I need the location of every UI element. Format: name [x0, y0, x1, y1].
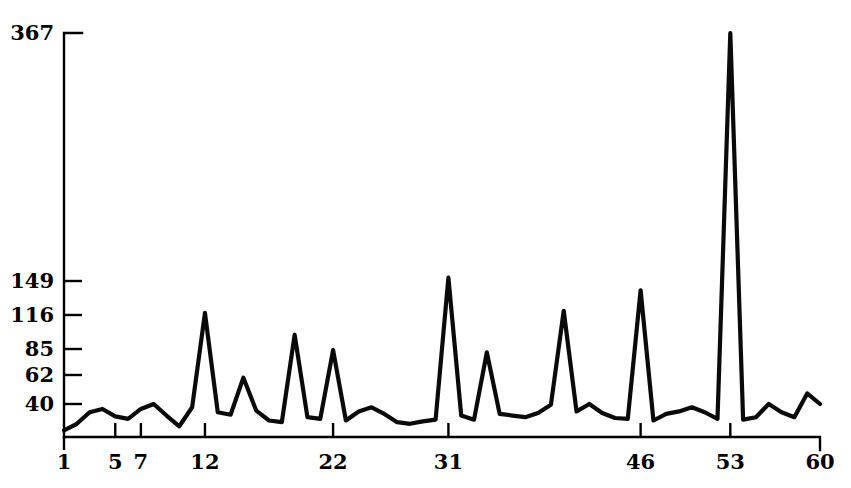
- x-tick-label: 12: [190, 449, 219, 474]
- x-tick-label: 60: [805, 449, 834, 474]
- y-tick-label: 367: [10, 20, 54, 45]
- y-tick-label: 149: [10, 268, 54, 293]
- y-tick-label: 40: [25, 391, 54, 416]
- x-tick-label: 5: [108, 449, 123, 474]
- x-tick-label: 22: [318, 449, 347, 474]
- x-tick-label-group: 157122231465360: [57, 449, 835, 474]
- data-series-line: [64, 33, 820, 430]
- y-axis: [64, 33, 82, 437]
- y-tick-label-group: 367149116856240: [10, 20, 54, 416]
- line-chart: 367149116856240 157122231465360: [0, 0, 851, 488]
- y-tick-marks: [64, 281, 82, 404]
- x-tick-label: 7: [134, 449, 149, 474]
- x-tick-label: 1: [57, 449, 72, 474]
- x-tick-label: 53: [716, 449, 745, 474]
- x-tick-label: 46: [626, 449, 655, 474]
- chart-figure: 367149116856240 157122231465360: [0, 0, 851, 488]
- y-tick-label: 85: [25, 336, 54, 361]
- y-tick-label: 116: [10, 302, 54, 327]
- y-tick-label: 62: [25, 362, 54, 387]
- x-tick-label: 31: [434, 449, 463, 474]
